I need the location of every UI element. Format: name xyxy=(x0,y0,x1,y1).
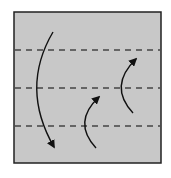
origami-diagram xyxy=(0,0,171,178)
